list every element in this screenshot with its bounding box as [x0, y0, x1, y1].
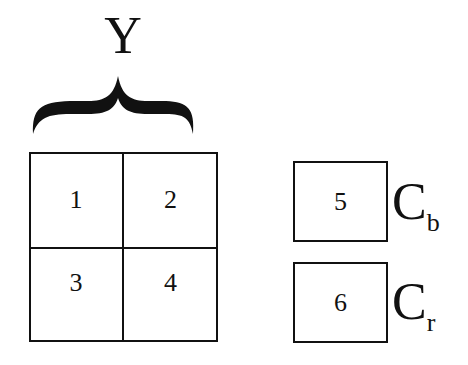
luma-block-2: 2	[123, 152, 218, 248]
cb-label: Cb	[392, 176, 440, 249]
luma-block-3: 3	[29, 248, 123, 318]
curly-brace-icon	[30, 74, 196, 136]
chroma-block-cb: 5	[293, 161, 388, 242]
luma-block-1: 1	[29, 152, 123, 248]
cr-label: Cr	[392, 276, 435, 349]
luma-block-4: 4	[123, 248, 218, 318]
luma-label: Y	[103, 10, 143, 62]
chroma-block-cr: 6	[293, 262, 388, 343]
